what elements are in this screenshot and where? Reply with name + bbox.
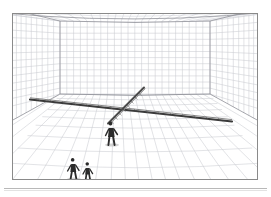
caption-divider-rule-secondary (4, 190, 267, 191)
figure-frame (12, 13, 258, 180)
page-canvas (0, 0, 271, 197)
caption-divider-rule (4, 188, 267, 189)
perspective-room-illustration (12, 13, 258, 180)
